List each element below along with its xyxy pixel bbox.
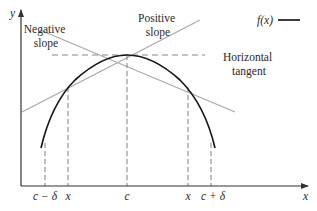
y-axis-label: y	[9, 7, 16, 20]
x-axis-label: x	[302, 190, 309, 202]
legend: f(x)	[257, 14, 300, 27]
legend-label: f(x)	[257, 14, 273, 27]
tick-label-c: c	[124, 190, 129, 202]
tick-label-c-minus-delta: c − δ	[33, 190, 58, 202]
negative-slope-label: Negative slope	[24, 23, 68, 50]
diagram-canvas: y x Negative slope Positive slope Horizo…	[0, 0, 317, 211]
function-curve	[41, 55, 215, 148]
tick-label-c-plus-delta: c + δ	[201, 190, 226, 202]
horizontal-tangent-label: Horizontal tangent	[223, 51, 275, 78]
negative-slope-tangent-line	[40, 30, 235, 112]
tick-label-x-left: x	[64, 190, 71, 202]
tick-label-x-right: x	[184, 190, 191, 202]
